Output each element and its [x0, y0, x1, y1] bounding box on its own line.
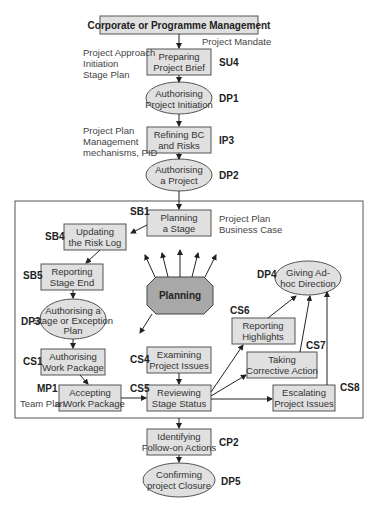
sb1-side-1: Project Plan: [219, 213, 270, 224]
cp2-code: CP2: [219, 437, 239, 448]
cs6-code: CS6: [230, 305, 250, 316]
cs8-code: CS8: [340, 382, 360, 393]
dp2-line1: Authorising: [155, 164, 203, 175]
su4-code: SU4: [219, 57, 239, 68]
sb5-line1: Reporting: [51, 266, 92, 277]
cp2-line2: Follow-on Actions: [142, 442, 217, 453]
cs7-line2: Corrective Action: [246, 365, 318, 376]
dp5-line2: project Closure: [147, 480, 211, 491]
ip3-code: IP3: [219, 135, 234, 146]
dp5-code: DP5: [221, 476, 241, 487]
su4-side-2: Initiation: [83, 58, 118, 69]
sb4-line1: Updating: [76, 226, 114, 237]
su4-side-3: Stage Plan: [83, 69, 129, 80]
sb4-code: SB4: [45, 231, 65, 242]
su4-line1: Preparing: [158, 51, 199, 62]
sb1-line2: a Stage: [163, 223, 196, 234]
sb4-line2: the Risk Log: [69, 237, 122, 248]
dp1-line1: Authorising: [155, 88, 203, 99]
cs8-line2: Project Issues: [274, 398, 334, 409]
sb1-side-2: Business Case: [219, 224, 282, 235]
su4-line2: Project Brief: [153, 62, 205, 73]
process-diagram: Corporate or Programme Management SU4 DP…: [0, 0, 380, 513]
dp3-line3: Plan: [63, 325, 82, 336]
cs4-code: CS4: [130, 354, 150, 365]
cs1-line1: Authorising: [49, 351, 97, 362]
sb1-code: SB1: [130, 206, 150, 217]
cs6-line1: Reporting: [242, 320, 283, 331]
cp2-line1: Identifying: [157, 431, 200, 442]
cs4-line1: Examining: [157, 349, 201, 360]
dp1-code: DP1: [219, 93, 239, 104]
su4-side-1: Project Approach: [83, 47, 155, 58]
cs6-line2: Highlights: [242, 331, 284, 342]
cs4-line2: Project Issues: [149, 360, 209, 371]
dp2-code: DP2: [219, 170, 239, 181]
cs1-code: CS1: [23, 356, 43, 367]
ip3-line1: Refining BC: [154, 129, 205, 140]
sb5-line2: Stage End: [50, 277, 94, 288]
cs5-line2: Stage Status: [152, 398, 207, 409]
cs5-code: CS5: [130, 383, 150, 394]
dp4-line1: Giving Ad-: [286, 267, 330, 278]
planning-label: Planning: [159, 290, 201, 301]
cs7-code: CS7: [306, 340, 326, 351]
sb1-line1: Planning: [161, 212, 198, 223]
mp1-side: Team Plan: [20, 398, 65, 409]
cs8-line1: Escalating: [282, 387, 326, 398]
dp1-line2: Project Initiation: [145, 99, 213, 110]
ip3-side-2: Management: [83, 136, 139, 147]
cs7-line1: Taking: [268, 354, 295, 365]
dp5-line1: Confirming: [156, 469, 202, 480]
cs1-line2: Work Package: [42, 362, 104, 373]
ip3-line2: and Risks: [158, 140, 200, 151]
dp4-code: DP4: [257, 269, 277, 280]
ip3-side-3: mechanisms, PID: [83, 147, 158, 158]
ip3-side-1: Project Plan: [83, 125, 134, 136]
corporate-management-label: Corporate or Programme Management: [88, 20, 271, 31]
mp1-line1: Accepting: [69, 387, 111, 398]
mp1-code: MP1: [37, 383, 58, 394]
mp1-line2: a Work Package: [55, 398, 125, 409]
cs5-line1: Reviewing: [157, 387, 201, 398]
sb5-code: SB5: [23, 270, 43, 281]
dp2-line2: a Project: [160, 175, 198, 186]
dp4-line2: hoc Direction: [280, 278, 335, 289]
mandate-label: Project Mandate: [202, 36, 271, 47]
